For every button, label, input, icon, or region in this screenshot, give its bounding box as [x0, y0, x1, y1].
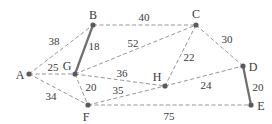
node-label-b: B	[89, 9, 97, 21]
edge-weight-a-g: 25	[48, 62, 59, 73]
edge-weight-b-g: 18	[89, 41, 100, 52]
edge-weight-g-h: 36	[117, 68, 128, 79]
node-e-dot	[248, 102, 253, 107]
graph-nodes	[26, 22, 253, 107]
node-label-h: H	[153, 71, 162, 83]
node-c-dot	[193, 22, 198, 27]
node-label-e: E	[257, 100, 264, 112]
edge-a-f	[29, 74, 88, 105]
node-g-dot	[72, 71, 77, 76]
node-a-dot	[26, 71, 31, 76]
weighted-graph	[0, 0, 272, 124]
edge-weight-f-e: 75	[164, 111, 175, 122]
edge-weight-b-c: 40	[139, 12, 150, 23]
node-b-dot	[90, 22, 95, 27]
node-h-dot	[162, 83, 167, 88]
edge-weight-h-d: 24	[201, 80, 212, 91]
node-f-dot	[85, 102, 90, 107]
edge-weight-a-b: 38	[49, 36, 60, 47]
node-label-a: A	[16, 69, 25, 81]
edge-weight-a-f: 34	[46, 91, 57, 102]
edge-weight-d-e: 20	[253, 82, 264, 93]
edge-weight-c-h: 22	[184, 52, 195, 63]
node-d-dot	[240, 63, 245, 68]
edge-weight-f-h: 35	[113, 85, 124, 96]
node-label-c: C	[192, 8, 200, 20]
edge-weight-c-d: 30	[222, 34, 233, 45]
edge-weight-g-f: 20	[86, 82, 97, 93]
node-label-f: F	[83, 111, 90, 123]
edge-c-d	[196, 25, 243, 66]
node-label-g: G	[63, 60, 72, 72]
edge-weight-g-c: 52	[128, 38, 139, 49]
node-label-d: D	[249, 61, 258, 73]
edge-f-h	[88, 86, 165, 105]
